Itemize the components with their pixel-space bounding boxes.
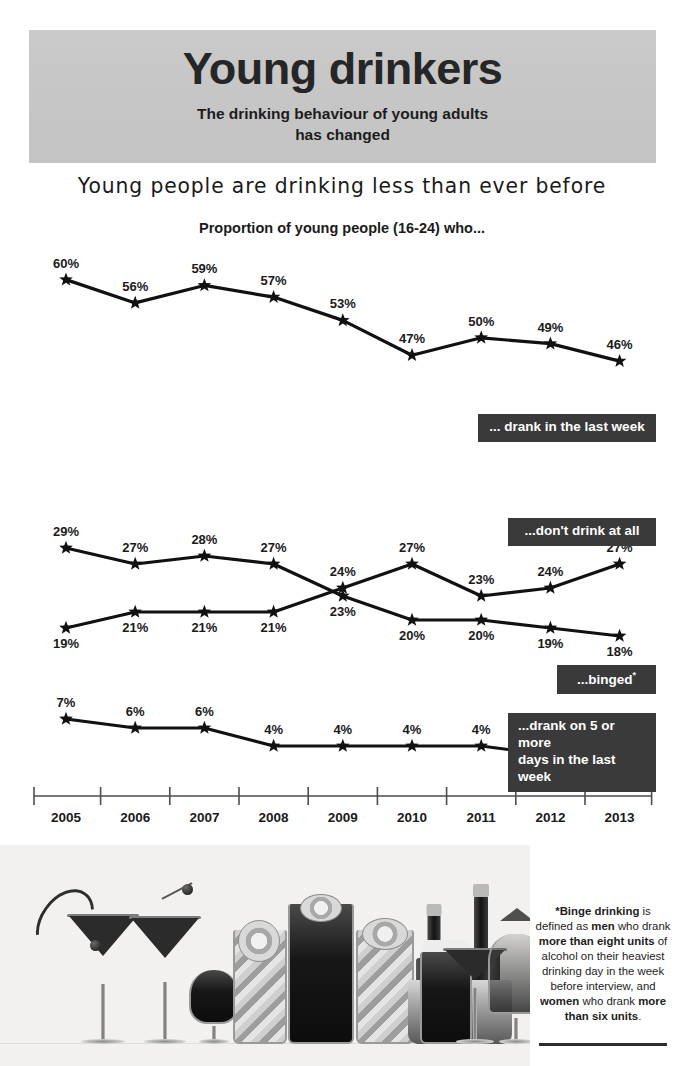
footnote-text-5: . [638,1010,641,1022]
x-axis-year-label: 2011 [467,810,497,825]
data-point-label: 7% [57,695,76,710]
data-point-star-marker [128,296,142,309]
data-point-label: 23% [330,604,356,619]
data-point-star-marker [474,331,488,344]
data-point-label: 20% [399,628,425,643]
tall-dark-drink-glass [288,894,354,1044]
data-point-star-marker [128,605,142,618]
data-point-star-marker [405,739,419,752]
x-axis-year-label: 2006 [120,810,151,825]
data-point-label: 57% [261,273,287,288]
data-point-star-marker [474,739,488,752]
x-axis-year-label: 2007 [189,810,219,825]
page-subtitle-line2: has changed [295,126,390,143]
strapline: Young people are drinking less than ever… [3,174,680,198]
data-point-label: 49% [537,320,563,335]
data-point-star-marker [267,605,281,618]
data-point-star-marker [198,721,212,734]
x-axis-year-label: 2008 [259,810,290,825]
x-axis: 200520062007200820092010201120122013 [34,787,652,825]
data-point-label: 21% [122,620,148,635]
x-axis-year-label: 2009 [328,810,358,825]
page-subtitle: The drinking behaviour of young adults h… [29,92,656,146]
data-point-label: 47% [399,331,425,346]
x-axis-year-label: 2005 [51,810,82,825]
data-point-label: 4% [333,722,352,737]
footnote-divider [539,1043,667,1046]
callout-five-or-more-days: ...drank on 5 or more days in the last w… [508,713,656,792]
data-point-label: 6% [126,704,145,719]
data-point-label: 27% [399,540,425,555]
data-point-label: 24% [330,564,356,579]
data-point-star-marker [198,549,212,562]
data-point-label: 46% [607,337,633,352]
data-point-star-marker [128,721,142,734]
data-point-star-marker [544,581,558,594]
footnote-marker: * [632,670,636,680]
footnote-text-2: who drank [615,920,671,932]
x-axis-year-label: 2012 [535,810,565,825]
data-point-star-marker [405,613,419,626]
callout-drank-last-week: ... drank in the last week [478,414,656,442]
data-point-label: 21% [261,620,287,635]
chart-panel-drank-in-last-week: 60%56%59%57%53%47%50%49%46% [53,256,633,367]
data-point-star-marker [198,278,212,291]
page-title: Young drinkers [29,30,656,92]
header-band: Young drinkers The drinking behaviour of… [29,30,656,163]
data-point-label: 53% [330,296,356,311]
page-subtitle-line1: The drinking behaviour of young adults [197,105,488,122]
x-axis-year-label: 2010 [397,810,427,825]
footnote-text-4: who drank [579,995,638,1007]
data-point-star-marker [613,629,627,642]
data-point-star-marker [405,348,419,361]
data-point-star-marker [59,621,73,634]
x-axis-year-label: 2013 [605,810,636,825]
callout-dont-drink-at-all: ...don't drink at all [508,518,656,546]
data-point-star-marker [128,557,142,570]
footnote-term: *Binge drinking [555,905,639,917]
data-point-label: 4% [264,722,283,737]
data-point-star-marker [59,712,73,725]
data-point-star-marker [613,557,627,570]
data-point-label: 4% [472,722,491,737]
data-point-star-marker [474,589,488,602]
drinks-photograph [0,845,530,1066]
iced-tumbler-glass [356,918,414,1044]
data-point-label: 59% [191,261,217,276]
data-point-label: 28% [191,532,217,547]
footnote-bold-men: men [591,920,614,932]
data-point-star-marker [613,354,627,367]
callout-five-days-line2: days in the last week [518,752,616,784]
footnote-binge-definition: *Binge drinking is defined as men who dr… [535,904,671,1024]
data-point-star-marker [544,336,558,349]
data-point-star-marker [267,739,281,752]
footnote-bold-eight-units: more than eight units [539,935,655,947]
footnote-bold-women: women [540,995,579,1007]
callout-five-days-line1: ...drank on 5 or more [518,718,615,750]
data-point-label: 19% [53,636,79,651]
data-point-label: 27% [261,540,287,555]
data-point-star-marker [544,621,558,634]
data-point-star-marker [198,605,212,618]
data-point-star-marker [267,290,281,303]
data-point-star-marker [336,739,350,752]
data-point-label: 24% [537,564,563,579]
callout-binged: ...binged* [557,665,656,694]
umbrella-cocktail-glass [486,924,530,1044]
data-point-label: 23% [468,572,494,587]
data-point-label: 4% [403,722,422,737]
data-point-label: 20% [468,628,494,643]
data-point-label: 6% [195,704,214,719]
data-point-label: 60% [53,256,79,271]
data-point-label: 19% [537,636,563,651]
data-point-label: 29% [53,524,79,539]
data-point-star-marker [59,541,73,554]
data-point-label: 27% [122,540,148,555]
data-point-star-marker [59,272,73,285]
data-point-label: 21% [191,620,217,635]
highball-glass-citrus [232,916,288,1044]
callout-binged-label: ...binged [577,672,633,687]
data-point-star-marker [474,613,488,626]
chart-title: Proportion of young people (16-24) who..… [0,220,684,236]
data-point-label: 50% [468,314,494,329]
